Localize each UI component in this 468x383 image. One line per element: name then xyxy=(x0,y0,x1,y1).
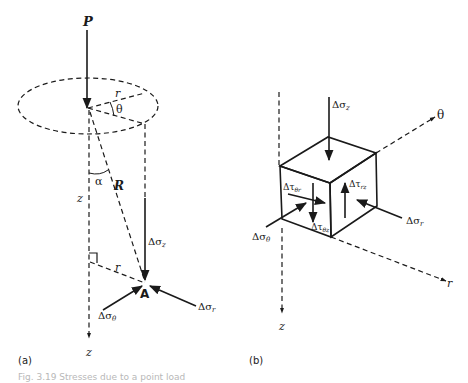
depth-z-label: z xyxy=(76,192,83,205)
cube-front-right-face xyxy=(330,153,377,237)
stress-theta-label: Δσθ xyxy=(252,231,271,244)
r-axis-label: r xyxy=(447,277,453,290)
loading-circle-ellipse xyxy=(18,78,158,134)
shear-theta-r-arrow xyxy=(288,194,325,203)
theta-arc xyxy=(110,102,114,116)
figure-canvas: P r θ z z α R Δσz r A Δσθ Δσr (a) z θ xyxy=(0,0,468,383)
theta-axis-line xyxy=(376,117,435,153)
alpha-arc xyxy=(89,170,108,174)
shear-theta-z-label: Δτθz xyxy=(311,222,330,233)
figure-caption: Fig. 3.19 Stresses due to a point load xyxy=(18,372,185,382)
panel-b-label: (b) xyxy=(249,355,263,366)
load-p-label: P xyxy=(82,14,94,29)
stress-r-label: Δσr xyxy=(406,215,424,228)
alpha-angle-label: α xyxy=(95,175,103,188)
theta-axis-label: θ xyxy=(437,108,444,122)
stress-z-label: Δσz xyxy=(148,236,166,249)
cube-top-face xyxy=(280,137,376,183)
z-axis-label: z xyxy=(85,346,92,359)
radius-r-label: r xyxy=(115,87,121,100)
distance-r-line xyxy=(90,112,145,282)
stress-theta-arrow xyxy=(103,286,142,310)
stress-theta-label: Δσθ xyxy=(98,310,117,323)
distance-r-label: R xyxy=(113,179,124,193)
stress-r-label: Δσr xyxy=(198,301,216,314)
panel-b: z θ r Δσz Δσθ Δσr Δτθr Δτθz Δτrz (b) xyxy=(249,92,453,366)
stress-z-label: Δσz xyxy=(332,99,350,112)
radial-r-label: r xyxy=(115,261,121,274)
panel-a: P r θ z z α R Δσz r A Δσθ Δσr (a) xyxy=(18,14,216,366)
shear-r-z-label: Δτrz xyxy=(349,179,367,190)
z-axis-label: z xyxy=(278,320,285,333)
panel-a-label: (a) xyxy=(18,355,32,366)
r-axis-line xyxy=(331,237,446,281)
stress-r-arrow xyxy=(150,286,196,306)
stress-theta-arrow xyxy=(266,203,306,227)
theta-angle-label: θ xyxy=(116,103,123,116)
point-a-label: A xyxy=(140,287,150,301)
shear-theta-r-label: Δτθr xyxy=(283,182,302,193)
